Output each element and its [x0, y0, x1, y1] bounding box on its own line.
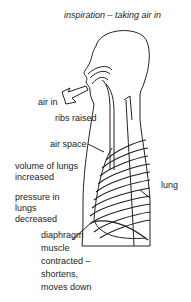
lung-outline	[94, 148, 146, 238]
respiratory-diagram	[0, 0, 191, 302]
label-air-in: air in	[38, 97, 58, 108]
label-volume-2: increased	[15, 172, 54, 183]
label-volume-1: volume of lungs	[15, 161, 78, 172]
label-diaphragm-5: moves down	[41, 282, 92, 293]
label-diaphragm-1: diaphragm	[41, 230, 84, 241]
label-diaphragm-3: contracted –	[41, 256, 91, 267]
label-pressure-2: lungs	[15, 203, 37, 214]
nasal-passage	[88, 67, 112, 84]
label-pressure-3: decreased	[15, 214, 57, 225]
label-ribs-raised: ribs raised	[55, 113, 97, 124]
label-lung: lung	[161, 180, 178, 191]
air-in-arrow	[62, 86, 88, 104]
rib-cage	[90, 140, 150, 238]
label-diaphragm-4: shortens,	[41, 269, 78, 280]
leader-air-space	[88, 144, 104, 152]
label-pressure-1: pressure in	[15, 192, 60, 203]
label-air-space: air space	[50, 139, 87, 150]
label-diaphragm-2: muscle	[41, 243, 70, 254]
